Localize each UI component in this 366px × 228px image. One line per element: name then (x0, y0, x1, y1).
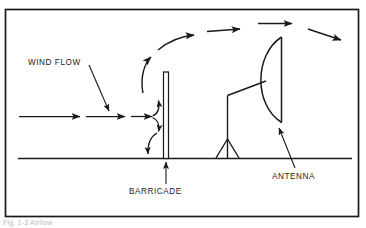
barricade-label: BARRICADE (129, 187, 182, 196)
airflow-diagram (0, 0, 366, 228)
wind-arrow-overhead-1 (207, 29, 240, 32)
deflection-arrow-up (153, 101, 159, 117)
wind-flow-leader-line (89, 65, 109, 111)
figure-border (6, 10, 359, 217)
wind-arrow-descending (308, 29, 341, 40)
antenna-leader-line (279, 128, 295, 168)
antenna-label: ANTENNA (272, 172, 315, 181)
wind-flow-label: WIND FLOW (28, 58, 81, 67)
figure-caption: Fig. 1-3 Airflow (3, 219, 53, 226)
wind-arrow-crest (158, 35, 194, 50)
barricade-panel (164, 72, 169, 159)
figure-container: WIND FLOW BARRICADE ANTENNA Fig. 1-3 Air… (0, 0, 366, 228)
deflection-arrow-down (148, 133, 157, 154)
antenna-dish (261, 37, 282, 123)
wind-arrow-rising (142, 57, 151, 93)
deflection-arrow-mid (153, 118, 159, 132)
